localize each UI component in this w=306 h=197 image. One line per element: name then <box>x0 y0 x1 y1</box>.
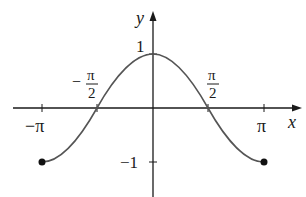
tick-label-y-one: 1 <box>136 37 145 56</box>
tick-label-neg-half-pi: − π 2 <box>72 67 98 101</box>
tick-label-neg-pi: −π <box>25 116 44 136</box>
tick-label-y-neg-one: −1 <box>120 153 138 172</box>
tick-label-pi: π <box>257 116 266 136</box>
y-axis-arrow-icon <box>150 11 157 21</box>
cosine-graph: y x −π π − π 2 π 2 1 −1 <box>0 0 306 197</box>
endpoint-left <box>39 159 46 166</box>
y-axis-label: y <box>134 8 144 28</box>
x-axis-label: x <box>287 112 296 132</box>
fraction-numerator: π <box>87 67 95 83</box>
fraction-numerator: π <box>208 67 216 83</box>
endpoint-right <box>261 159 268 166</box>
x-axis-arrow-icon <box>292 105 302 112</box>
tick-label-half-pi: π 2 <box>207 67 219 101</box>
fraction-denominator: 2 <box>209 85 217 101</box>
fraction-denominator: 2 <box>88 85 96 101</box>
minus-sign: − <box>72 73 81 90</box>
